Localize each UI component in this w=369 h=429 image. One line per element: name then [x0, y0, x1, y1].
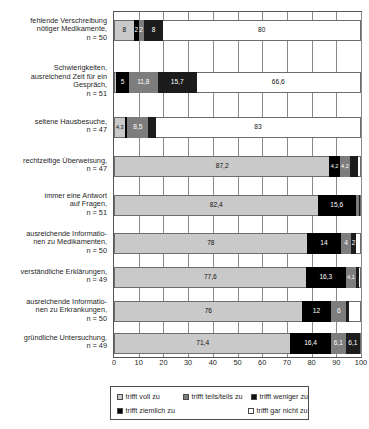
bar-segment-value: 76 — [205, 308, 212, 315]
category-label: rechtzeitige Überweisung,n = 47 — [0, 157, 107, 174]
legend-item[interactable]: trifft gar nicht zu — [248, 406, 308, 415]
bar-segment-value: 4,2 — [331, 164, 339, 170]
bar-segment-value: 11,8 — [137, 79, 149, 86]
stacked-bar: 87,24,24,2 — [114, 156, 361, 177]
bar-segment-value: 77,6 — [204, 274, 217, 281]
light-gray-swatch — [117, 394, 123, 400]
bar-row: 82,415,6 — [114, 186, 361, 226]
bar-segment-value: 83 — [254, 124, 261, 131]
bar-segment-value: 4 — [344, 240, 348, 247]
bar-segment: 76 — [114, 301, 302, 322]
bar-segment — [358, 156, 360, 177]
bar-segment-value: 8 — [152, 27, 156, 34]
x-tick-label: 0 — [112, 358, 116, 367]
bar-segment-value: 6,1 — [334, 340, 343, 347]
legend-item[interactable]: trifft voll zu — [117, 392, 160, 401]
bar-segment-value: 2 — [134, 27, 138, 34]
bar-segment-value: 87,2 — [216, 163, 229, 170]
legend-item-label: trifft gar nicht zu — [257, 406, 308, 415]
bar-segment — [350, 156, 358, 177]
x-tick-label: 60 — [258, 358, 266, 367]
bar-segment: 71,4 — [114, 333, 290, 354]
bar-row: 71,416,46,16,1 — [114, 328, 361, 357]
bar-segment-value: 4,1 — [347, 275, 355, 281]
x-tick-label: 40 — [209, 358, 217, 367]
bar-segment: 4,2 — [340, 156, 350, 177]
bar-segment-value: 15,7 — [171, 79, 184, 86]
bar-segment-value: 6,1 — [348, 340, 357, 347]
category-label-line: n = 49 — [0, 276, 107, 285]
bar-segment: 4,1 — [346, 267, 356, 288]
bar-segment-value: 14 — [320, 240, 327, 247]
bar-row: 822880 — [114, 12, 361, 56]
bar-segment: 11,8 — [129, 72, 158, 93]
x-tick-label: 70 — [283, 358, 291, 367]
bar-segment-value: 12 — [313, 308, 320, 315]
bar-row: 511,815,766,6 — [114, 56, 361, 108]
category-label: gründliche Untersuchung,n = 49 — [0, 334, 107, 351]
x-tick-label: 10 — [135, 358, 143, 367]
x-tick-label: 100 — [355, 358, 367, 367]
x-tick-label: 50 — [233, 358, 241, 367]
stacked-bar: 76126 — [114, 301, 361, 322]
bar-segment-value: 15,6 — [330, 202, 343, 209]
stacked-bar: 4,38,583 — [114, 117, 361, 138]
bar-segment-value: 8 — [123, 27, 127, 34]
gridline-100 — [361, 12, 362, 357]
category-label: Schwierigkeiten,ausreichend Zeit für ein… — [0, 64, 107, 98]
x-axis-ticks: 0102030405060708090100 — [113, 358, 362, 372]
bar-segment: 4,2 — [329, 156, 339, 177]
bar-segment-value: 2 — [352, 240, 356, 247]
bar-segment: 8 — [144, 20, 164, 41]
bar-row: 76126 — [114, 294, 361, 328]
legend-item[interactable]: trifft teils/teils zu — [183, 392, 243, 401]
stacked-bar: 82,415,6 — [114, 195, 361, 216]
bar-segment: 83 — [156, 117, 361, 138]
bar-segment-value: 5 — [121, 79, 125, 86]
bar-segment-value: 16,4 — [304, 340, 317, 347]
medium-gray-swatch — [183, 394, 189, 400]
stacked-bar: 781442 — [114, 233, 361, 254]
bar-segment: 6,1 — [346, 333, 361, 354]
bar-segment: 66,6 — [197, 72, 361, 93]
white-swatch — [248, 408, 254, 414]
category-axis-labels: fehlende Verschreibungnötiger Medikament… — [0, 11, 111, 358]
category-label: ausreichende Informatio-nen zu Medikamen… — [0, 230, 107, 256]
legend-item[interactable]: trifft weniger zu — [251, 392, 308, 401]
bar-segment-value: 2 — [139, 27, 143, 34]
bar-segment-value: 8,5 — [133, 124, 142, 131]
bar-row: 781442 — [114, 226, 361, 260]
bar-segment — [356, 233, 361, 254]
bar-segment-value: 71,4 — [196, 340, 209, 347]
bar-segment: 8 — [114, 20, 134, 41]
bar-segment-value: 66,6 — [272, 79, 285, 86]
x-tick-label: 30 — [184, 358, 192, 367]
legend-item[interactable]: trifft ziemlich zu — [117, 406, 175, 415]
legend-item-label: trifft teils/teils zu — [192, 392, 243, 401]
legend-item-label: trifft voll zu — [126, 392, 160, 401]
bar-segment — [148, 117, 156, 138]
bar-segment: 4,3 — [114, 117, 125, 138]
bar-segment-value: 6 — [337, 308, 341, 315]
bar-segment: 14 — [307, 233, 342, 254]
bar-segment: 16,4 — [290, 333, 331, 354]
bar-segment: 16,3 — [306, 267, 346, 288]
bar-segment-value: 80 — [258, 27, 265, 34]
bar-segment: 80 — [163, 20, 361, 41]
category-label: fehlende Verschreibungnötiger Medikament… — [0, 17, 107, 43]
bar-segment-value: 4,2 — [341, 164, 349, 170]
stacked-bar: 511,815,766,6 — [114, 72, 361, 93]
legend-item-label: trifft ziemlich zu — [126, 406, 175, 415]
bar-segment: 6 — [331, 301, 346, 322]
bar-segment-value: 82,4 — [210, 202, 223, 209]
bar-segment: 4 — [341, 233, 351, 254]
bar-segment: 87,2 — [114, 156, 329, 177]
x-tick-label: 20 — [159, 358, 167, 367]
bar-row: 77,616,34,1 — [114, 260, 361, 294]
category-label-line: n = 50 — [0, 247, 107, 256]
category-label-line: n = 51 — [0, 209, 107, 218]
stacked-bar-chart: fehlende Verschreibungnötiger Medikament… — [0, 0, 369, 429]
category-label: ausreichende Informatio-nen zu Erkrankun… — [0, 298, 107, 324]
bar-segment-value: 78 — [207, 240, 214, 247]
category-label-line: n = 47 — [0, 165, 107, 174]
